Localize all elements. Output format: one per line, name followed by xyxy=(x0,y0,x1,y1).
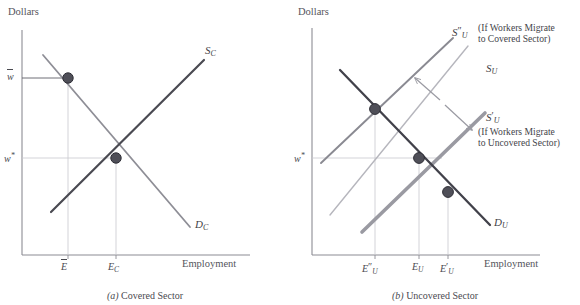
wstar-asterisk: * xyxy=(11,151,15,160)
migrate-uncovered-line1: (If Workers Migrate xyxy=(478,126,560,137)
supply-curve-uncovered-shift-right xyxy=(362,113,485,232)
edprime-subscript: U xyxy=(372,267,377,276)
x-tick-label-eprime: E′U xyxy=(440,261,454,276)
du-glyph: D xyxy=(494,216,502,228)
demand-curve-label-covered: DC xyxy=(195,218,208,232)
low-wage-point xyxy=(443,187,454,198)
caption-prefix-b: (b) xyxy=(392,290,404,301)
migrate-covered-line2: to Covered Sector) xyxy=(478,33,555,44)
demand-label-uncovered: DU xyxy=(494,216,508,230)
migrate-uncovered-line2: to Uncovered Sector) xyxy=(478,137,560,148)
caption-uncovered-sector: (b) Uncovered Sector xyxy=(290,290,580,301)
su-subscript: U xyxy=(492,67,498,76)
x-tick-label-eu: EU xyxy=(412,261,424,274)
panel-covered-sector: Dollars w w* xyxy=(0,0,290,305)
labor-market-dual-sector-figure: ​ Dollars w w* xyxy=(0,0,580,305)
shift-right-arrow xyxy=(445,105,472,130)
migrate-covered-line1: (If Workers Migrate xyxy=(478,22,555,33)
wstar-asterisk-uncovered: * xyxy=(301,151,305,160)
wbar-glyph: w xyxy=(7,71,14,82)
dc-glyph: D xyxy=(195,218,203,230)
supply-curve-label-covered: SC xyxy=(205,44,216,58)
dc-subscript: C xyxy=(203,223,208,232)
demand-curve-uncovered xyxy=(340,70,490,225)
constrained-employment-point xyxy=(63,73,73,83)
panel-uncovered-sector: Dollars xyxy=(290,0,580,305)
su-dprime-subscript: U xyxy=(462,31,468,40)
ec-subscript: C xyxy=(114,265,119,274)
y-tick-label-wbar: w xyxy=(7,71,14,82)
wstar-glyph: w xyxy=(4,153,11,164)
high-wage-point xyxy=(370,104,381,115)
supply-label-uncovered-shift-left: S″U xyxy=(452,25,467,40)
supply-curve-covered xyxy=(51,60,204,212)
su-prime-subscript: U xyxy=(494,116,500,125)
x-tick-label-ebar: E xyxy=(61,261,67,272)
initial-equilibrium-point xyxy=(414,153,425,164)
migrate-to-uncovered-note: (If Workers Migrate to Uncovered Sector) xyxy=(478,126,560,149)
y-tick-label-wstar: w* xyxy=(4,151,15,164)
caption-text-a: Covered Sector xyxy=(121,290,183,301)
eu-subscript: U xyxy=(418,265,423,274)
x-axis-title-uncovered: Employment xyxy=(484,258,538,269)
migrate-to-covered-note: (If Workers Migrate to Covered Sector) xyxy=(478,22,555,45)
x-axis-title-covered: Employment xyxy=(182,258,236,269)
ebar-glyph: E xyxy=(61,261,67,272)
du-subscript: U xyxy=(502,221,508,230)
sc-subscript: C xyxy=(211,49,216,58)
x-tick-label-edprime: E″U xyxy=(362,261,378,276)
y-tick-label-wstar-uncovered: w* xyxy=(294,151,305,164)
x-tick-label-ec: EC xyxy=(108,261,119,274)
covered-equilibrium-point xyxy=(111,153,121,163)
wstar-glyph-uncovered: w xyxy=(294,153,301,164)
caption-covered-sector: (a) Covered Sector xyxy=(0,290,290,301)
caption-text-b: Uncovered Sector xyxy=(406,290,478,301)
supply-label-uncovered-shift-right: S′U xyxy=(486,110,499,125)
caption-prefix-a: (a) xyxy=(107,290,119,301)
eprime-subscript: U xyxy=(448,267,453,276)
covered-sector-plot xyxy=(0,0,290,305)
supply-label-uncovered-original: SU xyxy=(486,62,497,76)
